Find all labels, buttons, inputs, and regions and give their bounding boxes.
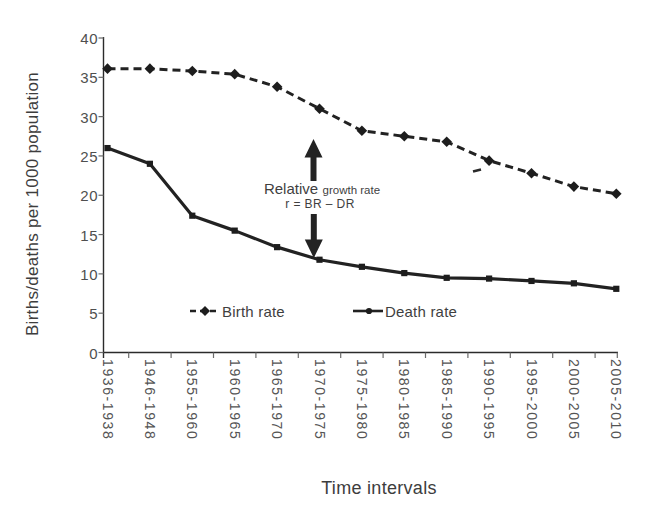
death-rate-point-marker (486, 275, 492, 281)
birth-rate-point-marker (145, 63, 156, 74)
scan-artifact-mark (473, 170, 481, 172)
birth-rate-point-marker (187, 66, 198, 77)
death-rate-point-marker (232, 228, 238, 234)
death-rate-legend-marker-icon (353, 304, 383, 318)
x-tick-label: 1970-1975 (313, 359, 327, 440)
demographic-transition-figure: 0510152025303540 1936-19381946-19481955-… (0, 0, 650, 516)
legend-label-birth-rate: Birth rate (222, 303, 285, 320)
birth-rate-point-marker (611, 188, 622, 199)
death-rate-point-marker (104, 145, 110, 151)
birth-rate-point-marker (357, 125, 368, 136)
x-axis-title: Time intervals (321, 478, 437, 499)
up-arrow-icon (305, 139, 323, 181)
death-rate-point-marker (528, 278, 534, 284)
death-rate-point-marker (613, 286, 619, 292)
birth-rate-point-marker (399, 131, 410, 142)
y-tick-label: 40 (58, 31, 98, 46)
annotation-formula: r = BR – DR (285, 197, 354, 211)
birth-rate-point-marker (229, 69, 240, 80)
x-tick-label: 2000-2005 (567, 359, 581, 440)
y-axis-title: Births/deaths per 1000 population (23, 72, 43, 336)
y-tick-label: 0 (58, 345, 98, 360)
down-arrow-icon (305, 214, 323, 258)
birth-rate-point-marker (441, 136, 452, 147)
x-tick-label: 1985-1990 (440, 359, 454, 440)
y-tick-label: 35 (58, 70, 98, 85)
death-rate-point-marker (189, 213, 195, 219)
x-tick-label: 1975-1980 (355, 359, 369, 440)
birth-rate-point-marker (569, 181, 580, 192)
death-rate-point-marker (401, 270, 407, 276)
legend-item-death-rate: Death rate (353, 303, 457, 319)
y-tick-label: 5 (58, 306, 98, 321)
legend-item-birth-rate: Birth rate (190, 303, 285, 319)
death-rate-point-marker (444, 275, 450, 281)
x-tick-label: 2005-2010 (609, 359, 623, 440)
death-rate-point-marker (571, 280, 577, 286)
x-tick-label: 1990-1995 (482, 359, 496, 440)
birth-rate-point-marker (484, 155, 495, 166)
x-tick-label: 1955-1960 (185, 359, 199, 440)
annotation-relative-growth-rate: Relative growth rate (264, 180, 380, 198)
x-tick-label: 1936-1938 (101, 359, 115, 440)
birth-rate-point-marker (526, 168, 537, 179)
x-tick-label: 1995-2000 (525, 359, 539, 440)
y-tick-label: 30 (58, 109, 98, 124)
death-rate-point-marker (316, 257, 322, 263)
y-tick-label: 15 (58, 227, 98, 242)
legend-label-death-rate: Death rate (385, 303, 457, 320)
x-tick-label: 1965-1970 (270, 359, 284, 440)
death-rate-point-marker (359, 264, 365, 270)
birth-rate-point-marker (272, 81, 283, 92)
y-tick-label: 20 (58, 188, 98, 203)
death-rate-point-marker (147, 161, 153, 167)
birth-rate-legend-marker-icon (190, 304, 220, 318)
x-tick-label: 1946-1948 (143, 359, 157, 440)
death-rate-point-marker (274, 244, 280, 250)
y-tick-label: 25 (58, 148, 98, 163)
x-tick-label: 1960-1965 (228, 359, 242, 440)
annotation-words-growth-rate: growth rate (323, 184, 381, 196)
annotation-word-relative: Relative (264, 180, 318, 197)
y-tick-label: 10 (58, 266, 98, 281)
x-tick-label: 1980-1985 (397, 359, 411, 440)
birth-rate-point-marker (314, 103, 325, 114)
